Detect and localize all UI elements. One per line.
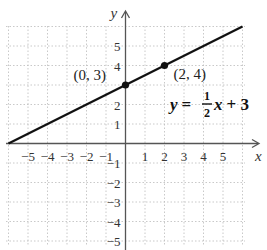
point-marker [122, 81, 129, 88]
point-marker [161, 62, 168, 69]
x-tick-label: −4 [41, 149, 55, 164]
x-tick-label: 1 [142, 149, 149, 164]
y-tick-label: −4 [107, 215, 121, 230]
y-tick-label: −2 [107, 176, 121, 191]
y-tick-label: 4 [114, 59, 121, 74]
point-label: (2, 4) [174, 66, 207, 83]
x-axis-label: x [254, 148, 262, 164]
x-tick-label: 4 [200, 149, 207, 164]
point-label: (0, 3) [74, 67, 107, 84]
eq-denominator: 2 [204, 106, 210, 120]
svg-text:x+ 3: x+ 3 [213, 95, 249, 114]
x-tick-label: 2 [161, 149, 168, 164]
axes [6, 11, 259, 250]
y-tick-label: 5 [114, 39, 121, 54]
x-tick-label: −2 [80, 149, 94, 164]
y-tick-label: 2 [114, 98, 121, 113]
x-tick-label: −5 [21, 149, 35, 164]
eq-lhs: y [168, 95, 178, 114]
x-tick-label: 5 [220, 149, 227, 164]
y-tick-label: −1 [107, 156, 121, 171]
eq-var: x [213, 95, 223, 114]
svg-text:y=: y= [168, 95, 191, 114]
x-tick-label: −3 [60, 149, 74, 164]
eq-rest: + 3 [227, 95, 249, 114]
eq-equals: = [182, 95, 192, 114]
graph: −5−4−3−2−1123455421−1−2−3−4−5 (0, 3)(2, … [0, 0, 267, 250]
equation-label: y= 1 2 x+ 3 [168, 89, 249, 120]
y-axis-label: y [109, 5, 118, 21]
x-tick-label: 3 [181, 149, 188, 164]
y-tick-label: −3 [107, 195, 121, 210]
labeled-points: (0, 3)(2, 4) [74, 62, 207, 89]
y-tick-label: −5 [107, 234, 121, 249]
eq-numerator: 1 [204, 89, 210, 103]
y-tick-label: 1 [114, 117, 121, 132]
